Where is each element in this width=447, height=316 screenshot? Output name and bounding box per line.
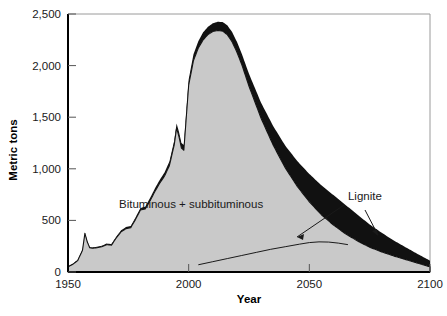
y-tick-label: 1,000: [32, 163, 61, 175]
bituminous-series-label: Bituminous + subbituminous: [119, 198, 263, 210]
chart-figure: 05001,0001,5002,0002,500 195020002050210…: [0, 0, 447, 316]
y-tick-label: 500: [42, 214, 61, 226]
plot-area: [68, 22, 430, 272]
y-tick-label: 2,500: [32, 8, 61, 20]
x-tick-label: 2100: [417, 278, 443, 290]
x-tick-label: 2000: [176, 278, 202, 290]
x-tick-label: 2050: [297, 278, 323, 290]
lignite-series-label: Lignite: [348, 190, 382, 202]
x-tick-label: 1950: [55, 278, 81, 290]
y-axis-ticks: [68, 14, 76, 272]
x-axis-title: Year: [237, 293, 262, 305]
y-tick-label: 0: [55, 266, 61, 278]
x-axis-tick-labels: 1950200020502100: [55, 278, 443, 290]
y-tick-label: 1,500: [32, 111, 61, 123]
y-tick-label: 2,000: [32, 60, 61, 72]
y-axis-tick-labels: 05001,0001,5002,0002,500: [32, 8, 61, 278]
y-axis-title: Metric tons: [7, 119, 19, 180]
coal-production-area-chart: 05001,0001,5002,0002,500 195020002050210…: [0, 0, 447, 316]
